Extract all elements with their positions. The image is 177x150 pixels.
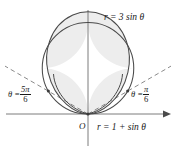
label-origin-text: O: [79, 121, 86, 131]
intersection-point-5pi-over-6: [47, 90, 50, 93]
label-theta-pi-over-6: θ =π6: [131, 85, 149, 104]
label-cardioid-equation: r = 1 + sin θ: [97, 123, 146, 133]
label-theta-5pi-over-6: θ =5π6: [8, 85, 31, 104]
fraction-pi-over-6: π6: [143, 85, 149, 104]
label-theta-right-prefix: θ =: [131, 89, 143, 99]
intersection-point-pi-over-6: [126, 90, 129, 93]
x-axis-arrowhead: [163, 111, 171, 118]
intersection-point-origin: [86, 112, 89, 115]
label-cardioid-equation-text: r = 1 + sin θ: [97, 122, 146, 132]
label-circle-equation: r = 3 sin θ: [104, 13, 144, 23]
fraction-numerator-5pi: 5π: [20, 85, 31, 95]
label-origin: O: [79, 122, 86, 131]
fraction-denominator-6: 6: [20, 95, 31, 104]
polar-plot-canvas: [0, 0, 177, 150]
label-circle-equation-text: r = 3 sin θ: [104, 12, 144, 22]
polar-plot-figure: r = 3 sin θ r = 1 + sin θ θ =π6 θ =5π6 O: [0, 0, 177, 150]
fraction-5pi-over-6: 5π6: [20, 85, 31, 104]
fraction-numerator-pi: π: [143, 85, 149, 95]
fraction-denominator-6: 6: [143, 95, 149, 104]
label-theta-left-prefix: θ =: [8, 89, 20, 99]
